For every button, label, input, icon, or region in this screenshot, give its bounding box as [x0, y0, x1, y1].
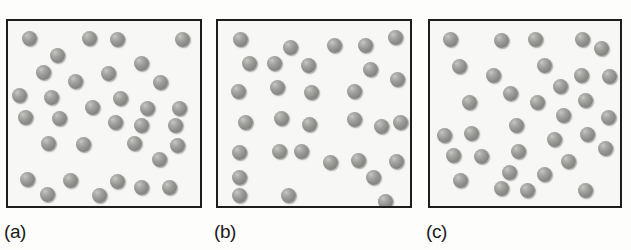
particle-sphere	[82, 31, 97, 46]
particle-sphere	[140, 101, 155, 116]
particle-sphere	[494, 33, 509, 48]
particle-sphere	[63, 173, 78, 188]
particle-sphere	[304, 85, 319, 100]
particle-sphere	[134, 56, 149, 71]
particle-sphere	[283, 40, 298, 55]
particle-sphere	[134, 180, 149, 195]
particle-sphere	[18, 110, 33, 125]
particle-sphere	[389, 154, 404, 169]
particle-sphere	[127, 136, 142, 151]
particle-sphere	[302, 117, 317, 132]
particle-sphere	[537, 167, 552, 182]
particle-sphere	[68, 74, 83, 89]
particle-sphere	[162, 180, 177, 195]
particle-sphere	[274, 111, 289, 126]
particle-sphere	[113, 91, 128, 106]
particle-sphere	[50, 48, 65, 63]
particle-sphere	[172, 101, 187, 116]
particle-sphere	[358, 38, 373, 53]
particle-sphere	[85, 100, 100, 115]
particle-sphere	[270, 80, 285, 95]
particle-sphere	[20, 172, 35, 187]
particle-sphere	[301, 58, 316, 73]
particle-sphere	[453, 173, 468, 188]
panel-label-b: (b)	[214, 222, 236, 241]
particle-sphere	[474, 149, 489, 164]
panel-box-b	[216, 19, 412, 208]
particle-sphere	[76, 137, 91, 152]
particle-sphere	[347, 112, 362, 127]
particle-sphere	[351, 153, 366, 168]
particle-sphere	[36, 65, 51, 80]
particle-sphere	[575, 32, 590, 47]
particle-sphere	[153, 75, 168, 90]
particle-sphere	[52, 111, 67, 126]
particle-sphere	[464, 126, 479, 141]
particle-sphere	[232, 188, 247, 203]
particle-sphere	[152, 152, 167, 167]
particle-sphere	[486, 68, 501, 83]
particle-sphere	[232, 145, 247, 160]
particle-sphere	[601, 110, 616, 125]
particle-sphere	[388, 30, 403, 45]
particle-sphere	[598, 141, 613, 156]
particle-sphere	[366, 170, 381, 185]
particle-sphere	[168, 118, 183, 133]
particle-sphere	[547, 132, 562, 147]
particle-sphere	[170, 138, 185, 153]
particle-sphere	[232, 170, 247, 185]
particle-sphere	[580, 127, 595, 142]
particle-sphere	[44, 90, 59, 105]
particle-sphere	[578, 183, 593, 198]
particle-sphere	[175, 32, 190, 47]
particle-sphere	[272, 144, 287, 159]
particle-sphere	[578, 93, 593, 108]
particle-sphere	[12, 88, 27, 103]
particle-sphere	[41, 136, 56, 151]
particle-sphere	[511, 144, 526, 159]
particle-sphere	[452, 59, 467, 74]
particle-sphere	[374, 119, 389, 134]
particle-sphere	[553, 79, 568, 94]
panel-label-c: (c)	[426, 222, 447, 241]
particle-sphere	[509, 118, 524, 133]
particle-sphere	[110, 174, 125, 189]
particle-sphere	[462, 95, 477, 110]
panel-box-c	[428, 19, 622, 208]
particle-sphere	[231, 84, 246, 99]
particle-sphere	[561, 154, 576, 169]
particle-sphere	[242, 56, 257, 71]
particle-sphere	[594, 41, 609, 56]
particle-sphere	[378, 194, 393, 208]
particle-diagram-figure: (a)(b)(c)	[0, 0, 631, 250]
particle-sphere	[437, 128, 452, 143]
particle-sphere	[494, 181, 509, 196]
particle-sphere	[537, 58, 552, 73]
particle-sphere	[323, 155, 338, 170]
particle-sphere	[530, 95, 545, 110]
particle-sphere	[281, 188, 296, 203]
particle-sphere	[233, 32, 248, 47]
particle-sphere	[92, 188, 107, 203]
particle-sphere	[446, 148, 461, 163]
particle-sphere	[238, 115, 253, 130]
particle-sphere	[101, 66, 116, 81]
particle-sphere	[556, 108, 571, 123]
particle-sphere	[503, 86, 518, 101]
particle-sphere	[22, 31, 37, 46]
particle-sphere	[267, 56, 282, 71]
particle-sphere	[502, 165, 517, 180]
particle-sphere	[40, 187, 55, 202]
particle-sphere	[528, 32, 543, 47]
particle-sphere	[108, 115, 123, 130]
particle-sphere	[602, 69, 617, 84]
particle-sphere	[347, 84, 362, 99]
panel-box-a	[6, 19, 202, 208]
particle-sphere	[390, 72, 405, 87]
panel-label-a: (a)	[4, 222, 26, 241]
particle-sphere	[134, 118, 149, 133]
particle-sphere	[363, 62, 378, 77]
particle-sphere	[393, 115, 408, 130]
particle-sphere	[327, 38, 342, 53]
particle-sphere	[110, 32, 125, 47]
